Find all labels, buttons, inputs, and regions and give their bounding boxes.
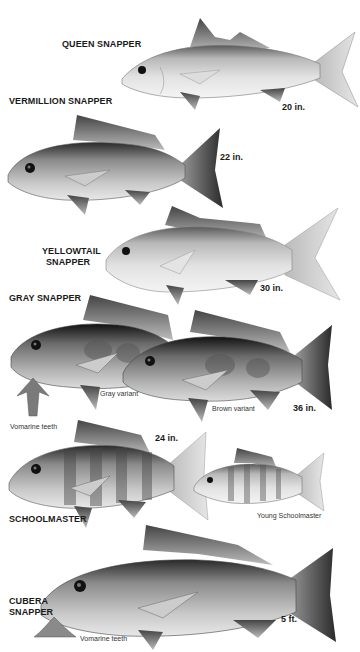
young-schoolmaster-illustration: [192, 445, 327, 515]
queen-snapper-illustration: [120, 12, 360, 112]
gray-snapper-size: 36 in.: [293, 403, 316, 413]
gray-variant-caption: Gray variant: [100, 390, 138, 397]
schoolmaster-size: 24 in.: [155, 433, 178, 443]
vermillion-snapper-size: 22 in.: [220, 152, 243, 162]
brown-variant-caption: Brown variant: [212, 405, 255, 412]
yellowtail-snapper-size: 30 in.: [260, 283, 283, 293]
young-schoolmaster-caption: Young Schoolmaster: [257, 512, 321, 519]
cubera-snapper-vomarine-teeth-icon: [32, 615, 78, 641]
queen-snapper-size: 20 in.: [282, 102, 305, 112]
cubera-snapper-illustration: [38, 520, 338, 652]
yellowtail-snapper-label-line1: YELLOWTAIL: [42, 246, 101, 257]
cubera-snapper-label-line1: CUBERA: [9, 596, 48, 607]
yellowtail-snapper-illustration: [100, 200, 345, 310]
yellowtail-snapper-label-line2: SNAPPER: [46, 257, 90, 268]
cubera-snapper-size: 5 ft.: [281, 614, 297, 624]
gray-snapper-vomarine-teeth-icon: [15, 376, 51, 420]
vermillion-snapper-label: VERMILLION SNAPPER: [9, 96, 112, 107]
cubera-snapper-teeth-caption: Vomarine teeth: [80, 635, 127, 642]
